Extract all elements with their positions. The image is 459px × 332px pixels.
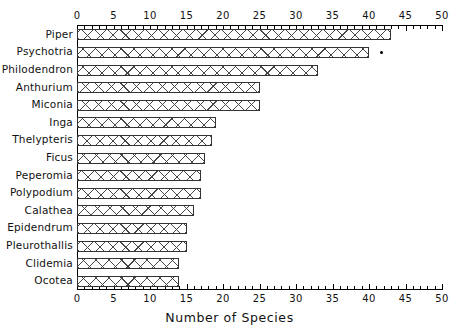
bar-anthurium	[77, 82, 260, 93]
x-tick-label: 30	[284, 11, 308, 21]
bar-inga	[77, 117, 216, 128]
x-tick-label: 20	[211, 11, 235, 21]
x-tick-label: 40	[357, 11, 381, 21]
bar-row	[77, 117, 442, 128]
category-label-inga: Inga	[1, 117, 73, 128]
category-label-philodendron: Philodendron	[1, 64, 73, 75]
bar-thelypteris	[77, 135, 212, 146]
bar-row	[77, 29, 442, 40]
major-tick	[442, 26, 443, 31]
bar-row	[77, 276, 442, 287]
bar-pleurothallis	[77, 241, 187, 252]
bar-epidendrum	[77, 223, 187, 234]
x-tick-label: 25	[248, 11, 272, 21]
axis-bottom-line	[77, 289, 443, 290]
bar-row	[77, 223, 442, 234]
x-tick-label: 50	[430, 11, 454, 21]
bar-clidemia	[77, 258, 179, 269]
x-tick-label: 40	[357, 294, 381, 304]
x-tick-label: 30	[284, 294, 308, 304]
x-tick-label: 45	[394, 294, 418, 304]
category-label-calathea: Calathea	[1, 205, 73, 216]
bar-row	[77, 170, 442, 181]
category-axis-labels: PiperPsychotriaPhilodendronAnthuriumMico…	[0, 26, 73, 289]
category-label-peperomia: Peperomia	[1, 170, 73, 181]
category-label-pleurothallis: Pleurothallis	[1, 240, 73, 251]
bar-row	[77, 82, 442, 93]
bar-peperomia	[77, 170, 201, 181]
species-bar-chart: 05101520253035404550 0510152025303540455…	[0, 0, 459, 332]
major-tick	[442, 284, 443, 289]
bar-row	[77, 135, 442, 146]
bar-philodendron	[77, 65, 318, 76]
category-label-thelypteris: Thelypteris	[1, 134, 73, 145]
x-tick-label: 35	[321, 11, 345, 21]
x-tick-label: 35	[321, 294, 345, 304]
x-tick-label: 0	[65, 11, 89, 21]
bar-row	[77, 65, 442, 76]
bar-psychotria	[77, 47, 369, 58]
x-tick-label: 20	[211, 294, 235, 304]
plot-area	[77, 26, 442, 289]
x-tick-label: 5	[102, 11, 126, 21]
x-tick-label: 5	[102, 294, 126, 304]
category-label-miconia: Miconia	[1, 99, 73, 110]
x-tick-label: 50	[430, 294, 454, 304]
x-tick-label: 45	[394, 11, 418, 21]
bar-row	[77, 258, 442, 269]
bar-polypodium	[77, 188, 201, 199]
bar-row	[77, 100, 442, 111]
x-tick-label: 10	[138, 11, 162, 21]
x-tick-label: 10	[138, 294, 162, 304]
x-tick-label: 25	[248, 294, 272, 304]
bar-row	[77, 241, 442, 252]
category-label-clidemia: Clidemia	[1, 258, 73, 269]
category-label-ocotea: Ocotea	[1, 275, 73, 286]
bar-piper	[77, 29, 391, 40]
bar-row	[77, 47, 442, 58]
annotation-dot-marker	[380, 51, 383, 54]
x-tick-label: 15	[175, 11, 199, 21]
x-axis-title: Number of Species	[0, 310, 459, 325]
bar-ficus	[77, 153, 205, 164]
category-label-polypodium: Polypodium	[1, 187, 73, 198]
x-tick-label: 0	[65, 294, 89, 304]
category-label-piper: Piper	[1, 29, 73, 40]
x-tick-label: 15	[175, 294, 199, 304]
category-label-anthurium: Anthurium	[1, 82, 73, 93]
category-label-epidendrum: Epidendrum	[1, 222, 73, 233]
bar-row	[77, 205, 442, 216]
bar-miconia	[77, 100, 260, 111]
bar-ocotea	[77, 276, 179, 287]
category-label-ficus: Ficus	[1, 152, 73, 163]
bar-row	[77, 153, 442, 164]
bar-calathea	[77, 205, 194, 216]
category-label-psychotria: Psychotria	[1, 46, 73, 57]
bar-row	[77, 188, 442, 199]
